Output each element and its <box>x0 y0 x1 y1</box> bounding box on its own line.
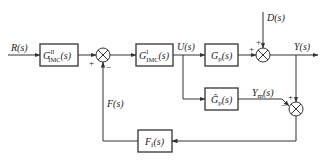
summing-junction-3 <box>289 102 303 116</box>
disturbance-label: D(s) <box>266 12 285 24</box>
sum1-minus-sign: − <box>106 62 111 72</box>
gimc1-label: GIIMC(s) <box>139 49 170 63</box>
feedback-label: F(s) <box>106 98 124 110</box>
plant-label: Gp(s) <box>211 50 233 63</box>
sum2-plus-top-sign: + <box>256 37 261 47</box>
model-output-label: Ym(s) <box>252 87 274 100</box>
gimc2-label: GIIIMC(s) <box>43 49 72 63</box>
summing-junction-2 <box>256 48 270 62</box>
sum3-minus-sign: − <box>281 100 286 110</box>
sum2-plus-left-sign: + <box>249 44 254 54</box>
model-label: Ĝp(s) <box>211 94 233 107</box>
sum3-plus-sign: + <box>288 92 293 102</box>
control-label: U(s) <box>177 41 195 53</box>
filter-label: Ff(s) <box>144 136 165 149</box>
block-diagram: R(s) U(s) D(s) Y(s) F(s) Ym(s) GIIIMC(s)… <box>0 0 325 164</box>
sum1-plus-sign: + <box>89 58 94 68</box>
output-label: Y(s) <box>294 41 311 53</box>
input-label: R(s) <box>10 42 28 54</box>
summing-junction-1 <box>96 48 110 62</box>
